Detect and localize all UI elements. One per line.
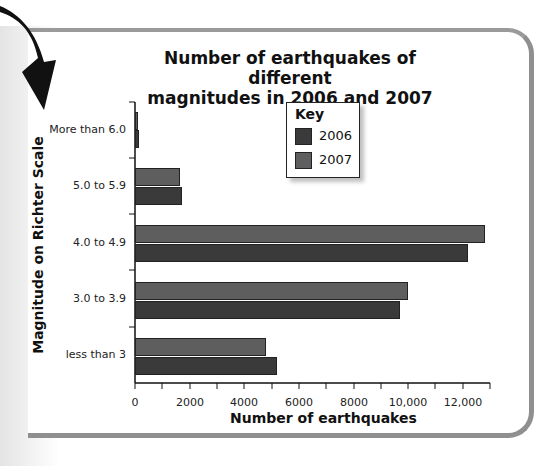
category-label: less than 3: [66, 348, 126, 361]
bar-2006: [135, 130, 139, 148]
x-tick-label: 2000: [176, 396, 204, 409]
x-tick-label: 12,000: [444, 396, 483, 409]
legend: Key 2006 2007: [286, 102, 360, 178]
bar-2007: [135, 282, 408, 300]
legend-label-2007: 2007: [319, 152, 352, 167]
bar-2006: [135, 301, 400, 319]
bar-2006: [135, 187, 182, 205]
legend-title: Key: [295, 106, 324, 122]
bar-2007: [135, 225, 485, 243]
legend-swatch-2007: [295, 152, 312, 169]
legend-label-2006: 2006: [319, 128, 352, 143]
x-tick-label: 4000: [230, 396, 258, 409]
category-label: 5.0 to 5.9: [73, 179, 126, 192]
x-tick-label: 8000: [340, 396, 368, 409]
category-label: 3.0 to 3.9: [73, 292, 126, 305]
x-tick-label: 6000: [285, 396, 313, 409]
category-label: 4.0 to 4.9: [73, 236, 126, 249]
bar-2006: [135, 244, 468, 262]
category-label: More than 6.0: [49, 123, 126, 136]
bar-2007: [135, 168, 180, 186]
legend-swatch-2006: [295, 128, 312, 145]
bar-2007: [135, 338, 266, 356]
x-tick-label: 0: [132, 396, 139, 409]
bar-2007: [135, 112, 138, 130]
bar-2006: [135, 357, 277, 375]
x-tick-label: 10,000: [389, 396, 428, 409]
